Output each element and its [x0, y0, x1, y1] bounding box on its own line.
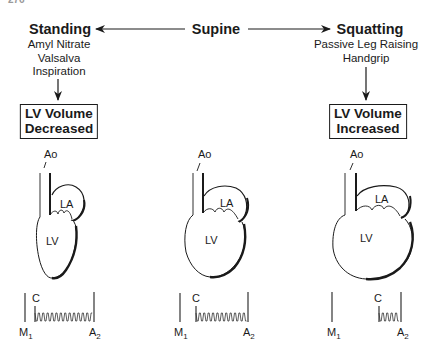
la-label-right: LA [375, 193, 388, 205]
click-label-middle: C [192, 292, 200, 304]
left-ventricle-shadow [210, 224, 245, 277]
lv-label-left: LV [46, 235, 59, 247]
a2-subscript: 2 [96, 332, 100, 341]
m1-subscript: 1 [336, 332, 340, 341]
la-label-middle: LA [220, 197, 233, 209]
heart-right [333, 163, 413, 279]
left-atrium-shadow [73, 200, 85, 221]
left-atrium-shadow [401, 196, 411, 218]
ao-label-right: Ao [350, 148, 363, 160]
a2-subscript: 2 [404, 332, 408, 341]
left-ventricle-shadow [366, 222, 413, 279]
click-label-left: C [32, 292, 40, 304]
mitral-bumps [50, 210, 72, 219]
left-ventricle [36, 217, 76, 278]
mitral-bumps [356, 205, 400, 216]
mitral-bumps [203, 208, 238, 219]
left-ventricle [333, 215, 413, 279]
la-label-left: LA [60, 198, 73, 210]
a2-label-right: A2 [397, 326, 409, 338]
heart-left [36, 162, 84, 278]
a2-label-middle: A2 [243, 326, 255, 338]
a2-subscript: 2 [250, 332, 254, 341]
phono-right [332, 292, 401, 322]
m1-subscript: 1 [28, 332, 32, 341]
left-ventricle-shadow [52, 226, 77, 278]
lv-label-middle: LV [205, 234, 218, 246]
ao-pointer [197, 163, 200, 171]
left-ventricle [185, 215, 245, 277]
murmur [196, 313, 247, 321]
diagram-drawing [0, 0, 428, 348]
ao-label-middle: Ao [198, 148, 211, 160]
m1-letter: M [19, 326, 28, 338]
phono-middle [180, 292, 248, 322]
ao-pointer [350, 163, 353, 170]
m1-letter: M [174, 326, 183, 338]
click-label-right: C [374, 292, 382, 304]
a2-label-left: A2 [89, 326, 101, 338]
m1-label-middle: M1 [174, 326, 188, 338]
heart-middle [185, 163, 248, 277]
m1-subscript: 1 [183, 332, 187, 341]
m1-label-right: M1 [327, 326, 341, 338]
m1-letter: M [327, 326, 336, 338]
murmur [379, 313, 399, 321]
ao-label-left: Ao [44, 148, 57, 160]
lv-label-right: LV [360, 232, 373, 244]
ao-pointer [44, 162, 46, 168]
m1-label-left: M1 [19, 326, 33, 338]
murmur [35, 313, 92, 321]
